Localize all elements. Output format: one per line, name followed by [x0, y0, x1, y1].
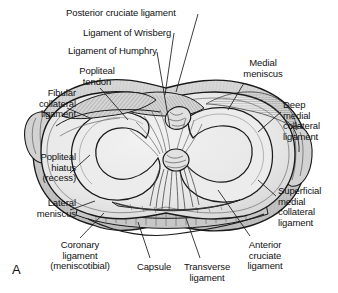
label-ligament-of-humphry: Ligament of Humphry — [68, 46, 218, 57]
label-transverse-ligament: Transverseligament — [176, 262, 238, 283]
label-fibular-collateral-ligament: Fibularcollateralligament — [2, 88, 76, 120]
label-anterior-cruciate-ligament: Anteriorcruciateligament — [235, 240, 295, 272]
label-popliteal-tendon: Poplitealtendon — [62, 66, 132, 87]
label-lateral-meniscus: Lateralmeniscus — [2, 198, 76, 219]
label-coronary-ligament-meniscotibial: Coronaryligament(meniscotibial) — [30, 240, 130, 272]
label-deep-medial-collateral-ligament: Deepmedialcollateralligament — [283, 100, 338, 142]
label-capsule: Capsule — [128, 262, 180, 273]
label-popliteal-hiatus-recess: Poplitealhiatus(recess) — [2, 152, 76, 184]
figure-canvas: Posterior cruciate ligamentLigament of W… — [0, 0, 338, 293]
label-superficial-medial-collateral-ligament: Superficialmedialcollateralligament — [278, 186, 338, 228]
label-medial-meniscus: Medialmeniscus — [228, 58, 298, 79]
label-ligament-of-wrisberg: Ligament of Wrisberg — [83, 28, 233, 39]
label-posterior-cruciate-ligament: Posterior cruciate ligament — [66, 8, 236, 19]
panel-letter: A — [12, 262, 21, 277]
